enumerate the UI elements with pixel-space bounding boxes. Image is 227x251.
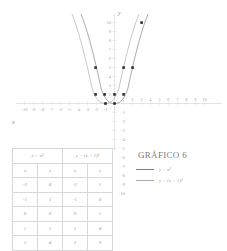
table-cell: 1 [63, 221, 88, 236]
y-tick-label: -5 [116, 146, 125, 151]
y-tick-label: 6 [102, 56, 111, 61]
table-cell: 4 [38, 236, 63, 251]
table-row: -1 1 -1 0 [13, 192, 113, 207]
table-cell: -2 [13, 178, 38, 193]
legend-item: y = x² [136, 167, 224, 172]
parabola-plot [0, 0, 227, 150]
table-column-header-row: x y x y [13, 163, 113, 178]
table-cell: 1 [38, 192, 63, 207]
table-cell: 9 [88, 236, 113, 251]
table-column-header: x [63, 163, 88, 178]
legend-swatch-icon [136, 169, 154, 170]
chart-title: GRÁFICO 6 [138, 150, 224, 160]
y-tick-label: 8 [102, 38, 111, 43]
table-group-header: y = x² [13, 149, 63, 164]
y-tick-label: -6 [116, 155, 125, 160]
table-row: 1 1 1 4 [13, 221, 113, 236]
y-tick-label: -3 [116, 128, 125, 133]
table-cell: 2 [13, 236, 38, 251]
table-cell: -1 [13, 192, 38, 207]
table-row: 0 0 0 1 [13, 207, 113, 222]
x-tick-label: -1 [101, 107, 111, 112]
table-cell: 4 [38, 178, 63, 193]
y-tick-label: -1 [116, 110, 125, 115]
y-tick-label: -10 [116, 191, 125, 196]
y-tick-label: 2 [102, 92, 111, 97]
table-cell: 1 [88, 178, 113, 193]
table-row: 2 4 2 9 [13, 236, 113, 251]
values-table: y = x² y = (x + 1)² x y x y -2 4 -2 1 -1… [12, 148, 113, 251]
table-group-header-row: y = x² y = (x + 1)² [13, 149, 113, 164]
table-cell: 1 [13, 221, 38, 236]
y-tick-label: -9 [116, 182, 125, 187]
table-cell: 2 [63, 236, 88, 251]
table-cell: 0 [88, 192, 113, 207]
y-tick-label: 3 [102, 83, 111, 88]
table-cell: -1 [63, 192, 88, 207]
y-tick-label: 10 [102, 20, 111, 25]
legend-label: y = x² [159, 167, 171, 172]
y-tick-label: -8 [116, 173, 125, 178]
y-tick-label: -7 [116, 164, 125, 169]
y-tick-label: 4 [102, 74, 111, 79]
legend-label: y = (x + 1)² [159, 178, 183, 183]
table-column-header: y [38, 163, 63, 178]
table-cell: 0 [38, 207, 63, 222]
x-axis-label: x [12, 119, 15, 125]
y-tick-label: -4 [116, 137, 125, 142]
y-tick-label: -2 [116, 119, 125, 124]
table-column-header: x [13, 163, 38, 178]
x-tick-label: 10 [200, 97, 210, 102]
table-cell: 4 [88, 221, 113, 236]
y-tick-label: 5 [102, 65, 111, 70]
table-cell: -2 [63, 178, 88, 193]
table-cell: 1 [88, 207, 113, 222]
table-column-header: y [88, 163, 113, 178]
table-cell: 0 [63, 207, 88, 222]
table-row: -2 4 -2 1 [13, 178, 113, 193]
y-tick-label: 9 [102, 29, 111, 34]
table-cell: 1 [38, 221, 63, 236]
table-group-header: y = (x + 1)² [63, 149, 113, 164]
table-cell: 0 [13, 207, 38, 222]
legend-swatch-icon [136, 180, 154, 181]
y-tick-label: 7 [102, 47, 111, 52]
legend: GRÁFICO 6 y = x² y = (x + 1)² [136, 150, 224, 189]
y-axis-label: y [118, 10, 121, 16]
legend-item: y = (x + 1)² [136, 178, 224, 183]
